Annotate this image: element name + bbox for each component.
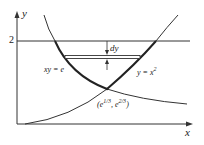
- y-axis-label: y: [22, 8, 27, 19]
- parabola-label: y = x2: [137, 66, 157, 77]
- arrow-down-icon: [105, 50, 109, 55]
- x-axis: [17, 122, 193, 127]
- hyperbola-label: xy = e: [44, 66, 64, 74]
- intersection-label: (e1/3, e2/3): [97, 98, 129, 109]
- y-axis: [15, 11, 20, 124]
- x-axis-label: x: [185, 127, 190, 138]
- dy-strip: [65, 56, 140, 59]
- y-axis-arrow-icon: [15, 11, 20, 18]
- parabola-curve-tail: [156, 15, 178, 41]
- intersection-x-exponent: 1/3: [103, 98, 111, 104]
- arrow-up-icon: [105, 59, 109, 64]
- y-tick-label-2: 2: [9, 35, 14, 45]
- parabola-curve: [25, 89, 107, 124]
- dy-label: dy: [110, 44, 119, 53]
- parabola-label-exponent: 2: [154, 66, 157, 72]
- hyperbola-curve: [44, 15, 55, 41]
- intersection-point: [106, 88, 109, 91]
- intersection-suffix: ): [126, 100, 129, 109]
- area-between-curves-diagram: y x 2 dy xy = e y = x2 (e1/3, e2/3): [0, 0, 204, 145]
- parabola-label-base: y = x: [137, 68, 154, 77]
- intersection-y-exponent: 2/3: [118, 98, 126, 104]
